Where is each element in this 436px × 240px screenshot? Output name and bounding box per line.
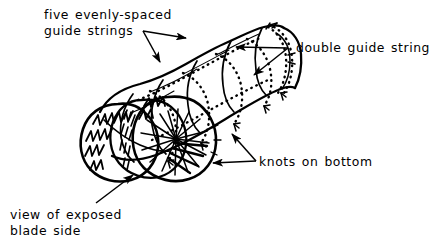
- bundle-far-end-inner: [276, 33, 290, 89]
- guide-string-3: [216, 54, 242, 124]
- leader-knots-a: [213, 161, 256, 163]
- bundle-layer-line-1: [150, 69, 197, 92]
- knot-mark: [281, 92, 287, 100]
- label-guide-strings-line2: guide strings: [44, 23, 133, 38]
- label-exposed-blade-line1: view of exposed: [10, 207, 122, 222]
- knot-mark: [288, 53, 295, 64]
- figure-page: five evenly-spaced guide strings double …: [0, 0, 436, 240]
- leader-double-guide-a: [236, 47, 288, 48]
- label-guide-strings-line1: five evenly-spaced: [44, 7, 172, 22]
- guide-string-2: [183, 73, 209, 143]
- label-exposed-blade-line2: blade side: [10, 223, 81, 238]
- rim-zigzag-hatching: [85, 111, 133, 170]
- knot-mark: [264, 105, 270, 113]
- leader-guide-strings-a: [143, 31, 186, 38]
- label-knots-on-bottom: knots on bottom: [259, 154, 373, 169]
- leader-guide-strings-b: [143, 31, 160, 62]
- leader-double-guide-b: [254, 48, 288, 75]
- leader-blade-side: [96, 175, 133, 203]
- leader-knots-b: [232, 134, 256, 161]
- guide-string-5a: [268, 27, 286, 93]
- label-double-guide-string: double guide string: [296, 40, 430, 55]
- knot-mark: [234, 123, 240, 131]
- technical-illustration: five evenly-spaced guide strings double …: [0, 0, 436, 240]
